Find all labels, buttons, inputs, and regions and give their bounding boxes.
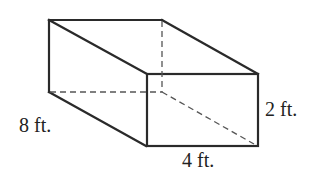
depth-label: 8 ft.: [19, 115, 51, 135]
edge-top-right-diagonal: [162, 20, 258, 74]
edge-top-left-diagonal: [49, 20, 147, 74]
rectangular-prism-diagram: 8 ft. 2 ft. 4 ft.: [0, 0, 320, 177]
hidden-edge-bottom-right-diagonal: [162, 92, 254, 144]
width-label: 4 ft.: [182, 150, 214, 170]
edge-bottom-left-diagonal: [49, 92, 146, 146]
height-label: 2 ft.: [265, 99, 297, 119]
front-face: [147, 74, 258, 146]
prism-drawing: [0, 0, 320, 177]
